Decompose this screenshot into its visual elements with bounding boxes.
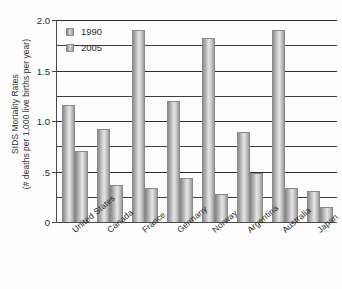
y-axis-tick — [52, 222, 57, 223]
bar-group — [232, 20, 267, 222]
x-axis-label-cell: Norway — [196, 224, 231, 288]
bar — [75, 151, 88, 222]
x-axis-label-cell: Canada — [91, 224, 126, 288]
bar-group — [197, 20, 232, 222]
bar — [132, 30, 145, 222]
legend: 1990 2005 — [66, 26, 102, 53]
y-axis-title: SIDS Mortality Rates (# deaths per 1,000… — [10, 14, 32, 214]
y-axis-title-line2: (# deaths per 1,000 live births per year… — [21, 14, 32, 214]
y-axis-title-line1: SIDS Mortality Rates — [10, 14, 21, 214]
sids-mortality-bar-chart: SIDS Mortality Rates (# deaths per 1,000… — [0, 0, 342, 289]
bar — [307, 191, 320, 222]
legend-swatch-icon-2005 — [66, 44, 74, 52]
legend-label-2005: 2005 — [81, 42, 102, 53]
x-axis-label-cell: Germany — [161, 224, 196, 288]
x-axis-label-cell: United States — [56, 224, 91, 288]
legend-item-1990: 1990 — [66, 26, 102, 37]
bar — [237, 132, 250, 222]
y-axis-tick-label: 0 — [45, 217, 50, 228]
y-axis-tick-label: 1.0 — [37, 116, 50, 127]
bar — [202, 38, 215, 222]
x-axis-label-cell: Argentina — [231, 224, 266, 288]
y-axis-tick-label: 2.0 — [37, 15, 50, 26]
x-axis-labels: United StatesCanadaFranceGermanyNorwayAr… — [56, 224, 336, 288]
legend-label-1990: 1990 — [81, 26, 102, 37]
x-axis-label-cell: Australia — [266, 224, 301, 288]
bar — [167, 101, 180, 222]
x-axis-label-cell: France — [126, 224, 161, 288]
legend-swatch-icon-1990 — [66, 28, 74, 36]
x-axis-label-cell: Japan — [301, 224, 336, 288]
bar-group — [127, 20, 162, 222]
legend-item-2005: 2005 — [66, 42, 102, 53]
y-axis-tick-label: 1.5 — [37, 65, 50, 76]
y-axis-tick-label: .5 — [42, 166, 50, 177]
bar-group — [267, 20, 302, 222]
bar — [62, 105, 75, 222]
bar-group — [302, 20, 337, 222]
bar-group — [162, 20, 197, 222]
bar — [272, 30, 285, 222]
